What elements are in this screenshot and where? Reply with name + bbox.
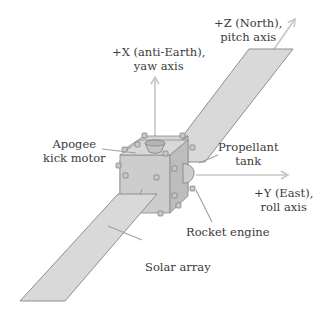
propellant-tank — [183, 163, 194, 183]
label-z-axis: +Z (North), pitch axis — [214, 16, 282, 44]
label-solar-array: Solar array — [145, 260, 211, 274]
label-apogee-kick-motor: Apogee kick motor — [43, 137, 106, 165]
label-y-axis: +Y (East), roll axis — [254, 186, 313, 214]
label-x-axis: +X (anti-Earth), yaw axis — [112, 45, 205, 73]
label-propellant-tank: Propellant tank — [218, 140, 279, 168]
solar-array-lower — [20, 194, 157, 301]
label-rocket-engine: Rocket engine — [186, 225, 270, 239]
